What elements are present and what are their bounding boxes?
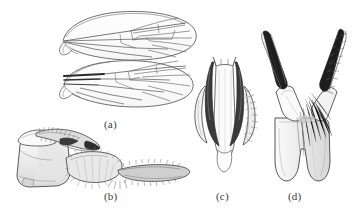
panel-label-b: (b) [104, 190, 117, 202]
illustration-plate: (a) (b) (c) (d) [0, 0, 359, 224]
panel-label-c: (c) [216, 190, 229, 202]
panel-label-d: (d) [288, 190, 301, 202]
panel-label-a: (a) [104, 118, 117, 130]
plate-drawing [0, 0, 359, 224]
